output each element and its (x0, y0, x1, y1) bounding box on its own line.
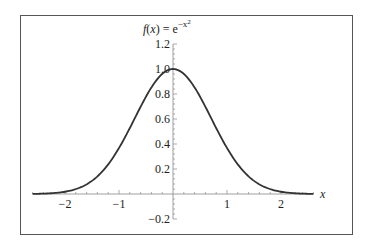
y-tick-label: 0.6 (155, 112, 170, 126)
tick-labels: −2−112−0.20.20.40.60.81.01.2 (59, 37, 284, 226)
y-tick-label: 0.4 (155, 137, 170, 151)
y-tick-label: 1.2 (155, 37, 170, 51)
gaussian-chart: −2−112−0.20.20.40.60.81.01.2 x f(x) = e−… (0, 0, 374, 249)
x-axis-label: x (319, 187, 326, 201)
y-tick-label: 0.2 (155, 162, 170, 176)
title-exp-power: 2 (187, 18, 191, 26)
title-exponent: −x (178, 19, 188, 29)
title-eq: ) = e (156, 22, 178, 36)
x-tick-label: −1 (113, 197, 126, 211)
x-tick-label: 1 (224, 197, 230, 211)
y-tick-label: −0.2 (148, 212, 170, 226)
chart-title: f(x) = e−x2 (143, 18, 191, 36)
y-tick-label: 0.8 (155, 87, 170, 101)
x-tick-label: −2 (59, 197, 72, 211)
axes (33, 44, 314, 219)
x-tick-label: 2 (278, 197, 284, 211)
